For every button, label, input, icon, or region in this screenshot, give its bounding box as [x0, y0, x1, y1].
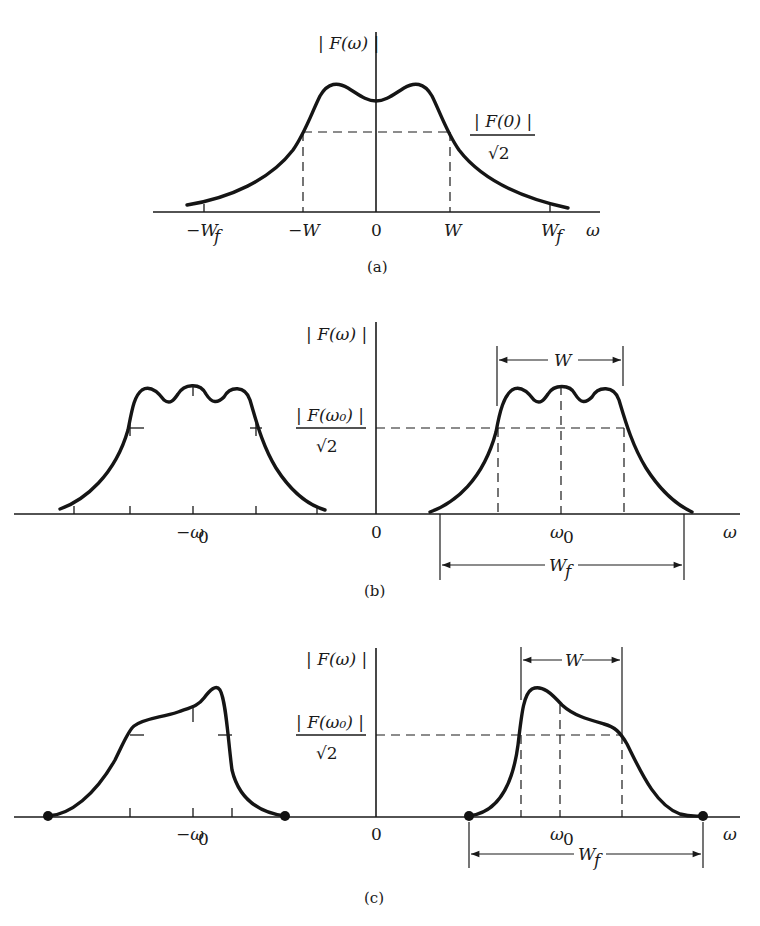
half-power-denominator: √2	[488, 143, 510, 163]
x-axis-label: ω	[723, 522, 737, 542]
spectrum-curve-negative	[60, 386, 325, 510]
tick-label-wf-sub: f	[554, 226, 565, 246]
panel-c: | F(ω) | | F(ω₀) | √2 W W f	[14, 647, 740, 907]
panel-a: | F(ω) | | F(0) | √2 −W f −W 0 W W f ω (…	[153, 32, 600, 276]
half-power-numerator: | F(0) |	[474, 111, 532, 131]
endpoint-dot	[464, 811, 474, 821]
endpoint-dot	[280, 811, 290, 821]
x-axis-label: ω	[723, 824, 737, 844]
tick-label-w0-sub: 0	[563, 829, 574, 849]
tick-label-neg-w: −W	[288, 220, 321, 240]
wf-label-sub: f	[563, 561, 574, 581]
spectrum-figure: | F(ω) | | F(0) | √2 −W f −W 0 W W f ω (…	[0, 0, 760, 926]
half-power-denominator: √2	[316, 743, 338, 763]
y-axis-label: | F(ω) |	[306, 324, 367, 344]
y-axis-label: | F(ω) |	[318, 33, 379, 53]
tick-label-neg-w0-sub: 0	[198, 527, 209, 547]
panel-caption: (c)	[364, 889, 384, 907]
x-axis-label: ω	[586, 220, 600, 240]
y-axis-label: | F(ω) |	[306, 649, 367, 669]
spectrum-curve-positive	[469, 688, 703, 816]
panel-b: | F(ω) | | F(ω₀) | √2 W W	[14, 322, 740, 600]
panel-caption: (b)	[364, 582, 385, 600]
tick-label-w: W	[444, 220, 463, 240]
tick-label-zero: 0	[371, 824, 382, 844]
w-label: W	[554, 350, 573, 370]
tick-label-w0: ω	[550, 522, 564, 542]
half-power-numerator: | F(ω₀) |	[296, 405, 364, 425]
w-label: W	[565, 650, 584, 670]
tick-label-zero: 0	[371, 220, 382, 240]
tick-label-neg-wf-sub: f	[212, 226, 223, 246]
tick-label-w0-sub: 0	[563, 527, 574, 547]
spectrum-curve	[187, 84, 568, 208]
wf-label-sub: f	[592, 850, 603, 870]
endpoint-dot	[698, 811, 708, 821]
spectrum-curve-negative	[48, 688, 285, 816]
tick-label-zero: 0	[371, 522, 382, 542]
panel-caption: (a)	[367, 258, 388, 276]
half-power-numerator: | F(ω₀) |	[296, 712, 364, 732]
half-power-denominator: √2	[316, 436, 338, 456]
endpoint-dot	[43, 811, 53, 821]
tick-label-neg-w0-sub: 0	[198, 829, 209, 849]
tick-label-w0: ω	[550, 824, 564, 844]
